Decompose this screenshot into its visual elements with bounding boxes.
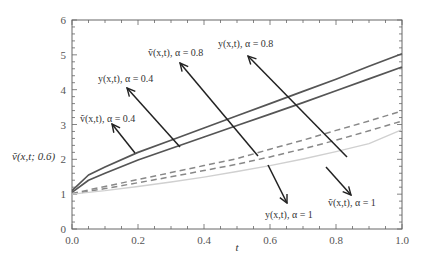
annotation-v-alpha-0-8: ṽ(x,t), α = 0.8	[148, 47, 203, 59]
annotation-y-alpha-0-4: y(x,t), α = 0.4	[98, 73, 153, 85]
series-line-4	[72, 130, 402, 195]
arrow-icon	[268, 165, 287, 203]
y-tick-label: 5	[61, 49, 67, 61]
series-line-1	[72, 67, 402, 192]
y-tick-label: 3	[61, 119, 67, 131]
x-tick-label: 0.6	[263, 234, 277, 246]
annotation-v-alpha-0-4: ṽ(x,t), α = 0.4	[80, 113, 135, 125]
y-tick-label: 6	[61, 14, 67, 26]
x-tick-label: 0.0	[65, 234, 79, 246]
y-tick-label: 1	[61, 188, 67, 200]
y-tick-label: 2	[61, 153, 67, 165]
x-tick-label: 0.2	[131, 234, 145, 246]
y-tick-label: 0	[61, 223, 67, 235]
arrow-icon	[326, 167, 351, 195]
annotation-y-alpha-1: y(x,t), α = 1	[265, 209, 313, 221]
x-axis-label: t	[235, 241, 239, 253]
x-tick-label: 1.0	[395, 234, 409, 246]
x-tick-label: 0.8	[329, 234, 343, 246]
y-tick-label: 4	[61, 84, 67, 96]
annotation-y-alpha-0-8: y(x,t), α = 0.8	[218, 38, 273, 50]
chart: 0.00.20.40.60.81.00123456 t ṽ(x,t; 0.6) …	[0, 0, 424, 270]
y-axis-label: ṽ(x,t; 0.6)	[12, 150, 55, 163]
arrow-icon	[112, 124, 135, 153]
x-tick-label: 0.4	[197, 234, 211, 246]
annotation-v-alpha-1: ṽ(x,t), α = 1	[328, 197, 376, 209]
